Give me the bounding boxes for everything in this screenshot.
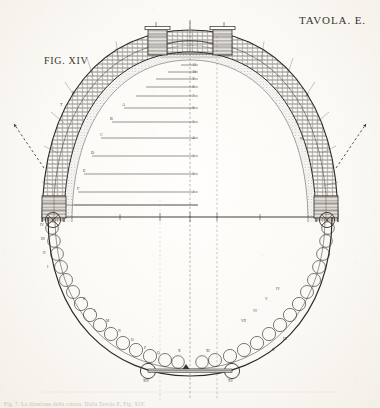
svg-text:K: K (83, 297, 86, 301)
impost-block-left (42, 196, 66, 218)
impost-block-right (314, 196, 338, 218)
svg-text:O: O (131, 338, 134, 342)
svg-text:6: 6 (193, 106, 195, 110)
svg-text:H: H (72, 90, 75, 95)
figure-label: FIG. XIV (44, 55, 89, 66)
right-thrust-arrow (336, 124, 366, 168)
plate-title: TAVOLA. E. (299, 14, 366, 26)
svg-text:A: A (122, 102, 125, 107)
svg-text:II: II (43, 251, 46, 255)
chord-tick-numerals: 11 10 9 8 7 6 5 4 3 2 1 (193, 63, 197, 194)
crown-pier-right (210, 27, 235, 56)
svg-text:B: B (110, 116, 113, 121)
svg-text:C: C (100, 132, 103, 137)
svg-text:E: E (83, 168, 86, 173)
svg-text:Q: Q (157, 351, 160, 355)
svg-text:8: 8 (193, 85, 195, 89)
svg-text:G: G (306, 92, 309, 97)
svg-text:1: 1 (193, 190, 195, 194)
svg-text:XIV: XIV (143, 379, 150, 383)
svg-text:VII: VII (241, 319, 247, 323)
engraving-plate: 11 10 9 8 7 6 5 4 3 2 1 A B C D E F H T … (0, 0, 380, 408)
svg-text:L: L (94, 309, 96, 313)
svg-text:4: 4 (193, 136, 195, 140)
axis-lines (160, 22, 217, 400)
svg-text:N: N (300, 136, 303, 141)
left-thrust-arrow (14, 124, 44, 168)
chain-point-labels: IV III II I K L M N O P Q IV V VI VII IX… (40, 223, 287, 383)
svg-text:5: 5 (193, 120, 195, 124)
svg-text:T: T (60, 102, 63, 107)
svg-text:IV: IV (40, 223, 44, 227)
dome-masonry-band (0, 0, 380, 230)
svg-text:XI: XI (206, 349, 211, 353)
svg-text:F: F (77, 186, 80, 191)
svg-text:7: 7 (193, 94, 195, 98)
svg-text:XV: XV (228, 379, 234, 383)
svg-text:V: V (265, 297, 268, 301)
svg-text:11: 11 (193, 63, 197, 67)
svg-text:IV: IV (276, 287, 280, 291)
chain-terminal-rings (45, 212, 334, 378)
svg-text:10: 10 (193, 70, 197, 74)
svg-text:9: 9 (193, 77, 195, 81)
crown-pier-left (145, 27, 170, 56)
svg-text:P: P (144, 346, 146, 350)
svg-text:IX: IX (283, 337, 287, 341)
svg-text:X: X (178, 349, 181, 353)
svg-text:D: D (91, 150, 94, 155)
svg-text:M: M (106, 319, 110, 323)
plate-caption: Fig. 7. La direzione della catena. Dalla… (4, 401, 146, 407)
svg-text:III: III (41, 237, 45, 241)
svg-text:N: N (118, 329, 121, 333)
svg-text:X: X (272, 348, 275, 352)
svg-text:VI: VI (253, 309, 258, 313)
svg-text:2: 2 (193, 172, 195, 176)
svg-text:I: I (47, 265, 49, 269)
svg-text:3: 3 (193, 154, 195, 158)
